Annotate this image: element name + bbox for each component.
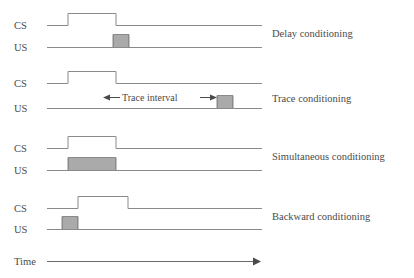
backward-cs-label: CS: [14, 203, 27, 214]
simultaneous-cs-label: CS: [14, 143, 27, 154]
trace-panel-title: Trace conditioning: [272, 93, 352, 104]
delay-us-pulse-fill: [114, 35, 129, 48]
backward-cs-trace: [47, 197, 262, 209]
time-axis-label: Time: [14, 256, 36, 267]
delay-cs-trace: [47, 14, 262, 26]
time-axis-arrowhead: [253, 258, 261, 266]
conditioning-svg: CS US Delay conditioning CS US Trace int…: [0, 0, 414, 278]
trace-interval-label: Trace interval: [122, 92, 178, 103]
panel-simultaneous: CS US Simultaneous conditioning: [14, 137, 386, 177]
delay-us-trace: [47, 35, 262, 48]
trace-interval-left-arrowhead: [103, 95, 110, 101]
delay-cs-label: CS: [14, 20, 27, 31]
backward-panel-title: Backward conditioning: [272, 211, 371, 222]
trace-us-label: US: [14, 103, 28, 114]
trace-us-pulse-fill: [218, 96, 233, 109]
simultaneous-us-pulse-fill: [69, 158, 116, 171]
panel-delay: CS US Delay conditioning: [14, 14, 354, 54]
panel-backward: CS US Backward conditioning: [14, 197, 371, 236]
backward-us-pulse-fill: [63, 217, 78, 230]
simultaneous-us-label: US: [14, 165, 28, 176]
simultaneous-cs-trace: [47, 137, 262, 149]
trace-interval-annotation: Trace interval: [103, 92, 217, 103]
simultaneous-panel-title: Simultaneous conditioning: [272, 151, 386, 162]
conditioning-diagram: CS US Delay conditioning CS US Trace int…: [0, 0, 414, 278]
panel-trace: CS US Trace interval Trace conditioning: [14, 72, 352, 115]
trace-interval-right-arrowhead: [210, 95, 217, 101]
delay-us-label: US: [14, 42, 28, 53]
trace-cs-trace: [47, 72, 262, 84]
backward-us-trace: [47, 217, 262, 230]
time-axis: Time: [14, 256, 261, 267]
backward-us-label: US: [14, 224, 28, 235]
trace-cs-label: CS: [14, 78, 27, 89]
delay-panel-title: Delay conditioning: [272, 28, 354, 39]
